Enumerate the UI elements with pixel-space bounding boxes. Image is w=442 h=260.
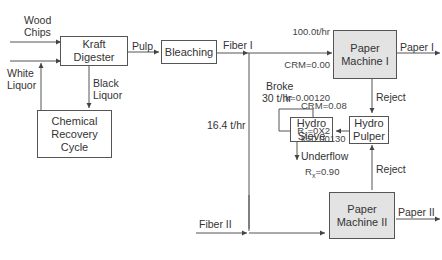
kraft-digester-node: Kraft Digester: [60, 36, 128, 66]
paper-machine-1-label: Paper Machine I: [341, 42, 389, 68]
chemical-recovery-label: Chemical Recovery Cycle: [51, 115, 97, 154]
branch-flow-label: 16.4 t/hr: [207, 119, 246, 131]
paper-machine-1-node: Paper Machine I: [333, 30, 397, 79]
fiber-1-rate: 100.0t/hr: [274, 26, 330, 37]
kraft-digester-label: Kraft Digester: [74, 38, 115, 64]
fiber-2-params: 23.6 t/hr CRM=0.00 k=0.00060 Rx=0.94: [197, 209, 243, 260]
paper-1-label: Paper I: [400, 41, 434, 53]
reject-top-label: Reject: [376, 91, 406, 103]
fiber-1-crm: CRM=0.00: [274, 59, 330, 70]
paper-machine-2-label: Paper Machine II: [337, 203, 388, 229]
broke-crm: CRM=0.08: [301, 100, 347, 111]
hydro-pulper-node: Hydro Pulper: [349, 116, 389, 144]
white-liquor-label: White Liquor: [7, 67, 36, 91]
wood-chips-label: Wood Chips: [24, 14, 51, 38]
broke-rx: Rx=0.90: [301, 166, 347, 181]
hydro-pulper-label: Hydro Pulper: [353, 117, 385, 143]
broke-params: CRM=0.08 k=0.00130 Rx=0.90: [301, 78, 347, 192]
fiber-1-label: Fiber I: [223, 39, 253, 51]
broke-k: k=0.00130: [301, 133, 347, 144]
chemical-recovery-node: Chemical Recovery Cycle: [37, 110, 112, 158]
paper-machine-2-node: Paper Machine II: [329, 192, 395, 239]
bleaching-node: Bleaching: [161, 40, 217, 64]
black-liquor-label: Black Liquor: [93, 77, 122, 101]
bleaching-label: Bleaching: [165, 46, 213, 59]
paper-2-label: Paper II: [398, 206, 435, 218]
pulp-label: Pulp: [132, 40, 153, 52]
reject-bottom-label: Reject: [376, 163, 406, 175]
